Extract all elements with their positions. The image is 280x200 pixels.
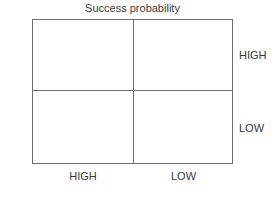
page-title: Success probability bbox=[32, 2, 233, 15]
quadrant-low-attractiveness-low-probability[interactable] bbox=[134, 91, 233, 163]
row-label-top: HIGH bbox=[239, 49, 280, 62]
matrix-diagram: Success probability Attractiveness HIGH … bbox=[0, 0, 280, 200]
column-label-left: HIGH bbox=[33, 170, 133, 183]
row-label-bottom: LOW bbox=[239, 122, 280, 135]
quadrant-high-attractiveness-low-probability[interactable] bbox=[134, 20, 233, 90]
column-label-right: LOW bbox=[134, 170, 233, 183]
quadrant-low-attractiveness-high-probability[interactable] bbox=[33, 91, 133, 163]
quadrant-high-attractiveness-high-probability[interactable] bbox=[33, 20, 133, 90]
